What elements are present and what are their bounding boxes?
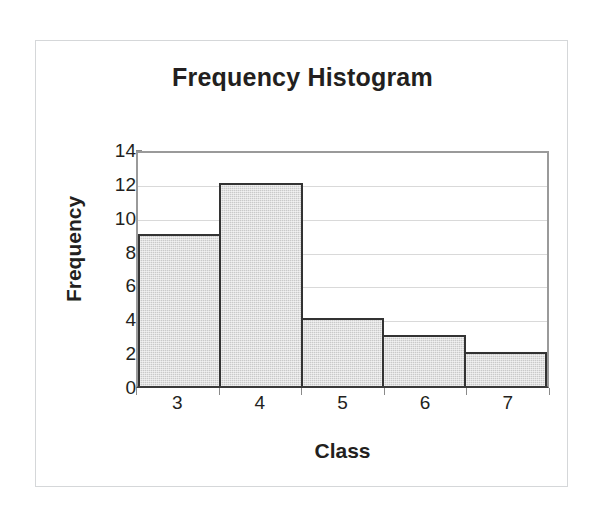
x-axis-tick-label: 5 <box>301 393 384 423</box>
y-axis-tick-label: 12 <box>90 175 136 194</box>
y-axis-tick-label: 10 <box>90 209 136 228</box>
chart-card: Frequency Histogram Frequency 0246810121… <box>35 40 568 487</box>
x-axis-tick-label: 6 <box>384 393 467 423</box>
x-axis-tick-labels: 34567 <box>136 393 549 423</box>
histogram-bar <box>464 352 547 386</box>
x-axis-title: Class <box>136 439 549 463</box>
histogram-bar <box>219 183 302 386</box>
x-axis-tick-mark <box>549 388 550 395</box>
x-axis-tick-label: 3 <box>136 393 219 423</box>
y-axis-tick-label: 2 <box>90 344 136 363</box>
plot-area <box>136 151 549 388</box>
screenshot-root: Frequency Histogram Frequency 0246810121… <box>0 0 601 524</box>
y-axis-tick-group: 02468101214 <box>80 151 136 388</box>
x-axis-tick-label: 4 <box>219 393 302 423</box>
chart-title: Frequency Histogram <box>36 63 569 92</box>
y-axis-tick-label: 8 <box>90 243 136 262</box>
y-axis-tick-label: 6 <box>90 276 136 295</box>
bars-layer <box>138 153 547 386</box>
x-axis-tick-label: 7 <box>466 393 549 423</box>
y-axis-tick-label: 4 <box>90 310 136 329</box>
y-axis-tick-label: 14 <box>90 141 136 160</box>
y-axis-tick-label: 0 <box>90 378 136 397</box>
histogram-bar <box>301 318 384 386</box>
histogram-bar <box>382 335 465 386</box>
histogram-bar <box>138 234 221 386</box>
